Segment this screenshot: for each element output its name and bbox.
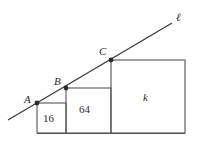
square-64-label: 64 [79,104,90,115]
square-k-label: k [143,92,148,103]
line-ell-label: ℓ [176,12,181,23]
point-b-label: B [54,76,61,87]
figure-canvas [0,0,198,147]
square-k [111,60,185,133]
point-b-dot [64,86,69,91]
point-a-label: A [24,94,31,105]
point-c-label: C [99,46,106,57]
line-ell [8,23,172,120]
geometry-figure: A B C ℓ 16 64 k [0,0,198,147]
point-c-dot [109,58,114,63]
square-16-label: 16 [43,113,54,124]
point-a-dot [35,101,40,106]
